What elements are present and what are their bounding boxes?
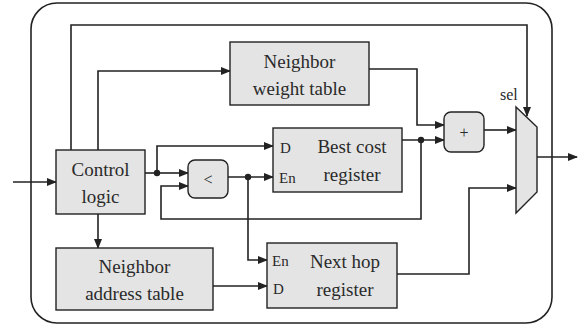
next-hop-port-d: D: [273, 281, 284, 297]
neighbor-address-table-block: Neighbor address table: [56, 248, 213, 310]
neighbor-weight-table-block: Neighbor weight table: [230, 42, 369, 105]
weight-table-label-2: weight table: [253, 78, 346, 99]
next-hop-port-en: En: [272, 253, 289, 269]
control-logic-label-2: logic: [82, 186, 120, 207]
control-logic-label-1: Control: [71, 159, 129, 180]
next-hop-label-1: Next hop: [310, 251, 380, 272]
best-cost-register-block: D En Best cost register: [273, 128, 402, 192]
best-cost-label-2: register: [324, 164, 382, 185]
ctrl-to-weight-wire: [98, 71, 230, 150]
next-hop-label-2: register: [317, 279, 375, 300]
adder-block: +: [444, 112, 484, 152]
junction-dot: [418, 137, 424, 143]
weight-table-label-1: Neighbor: [264, 51, 336, 72]
best-cost-label-1: Best cost: [317, 136, 387, 157]
address-table-label-1: Neighbor: [99, 256, 171, 277]
nexthop-to-mux-wire: [397, 188, 516, 274]
control-logic-block: Control logic: [56, 150, 145, 214]
address-table-label-2: address table: [85, 283, 184, 304]
next-hop-register-block: En D Next hop register: [267, 243, 397, 308]
mux-sel-label: sel: [500, 86, 518, 103]
best-cost-port-d: D: [280, 140, 291, 156]
multiplexer-block: sel: [500, 86, 537, 213]
comparator-symbol: <: [203, 171, 212, 188]
comparator-block: <: [188, 160, 228, 198]
junction-dot: [154, 170, 160, 176]
best-cost-port-en: En: [279, 170, 296, 186]
adder-symbol: +: [459, 124, 468, 141]
router-datapath-diagram: Control logic Neighbor weight table D En…: [0, 0, 580, 327]
weight-to-adder-wire: [369, 69, 444, 125]
junction-dot: [245, 174, 251, 180]
